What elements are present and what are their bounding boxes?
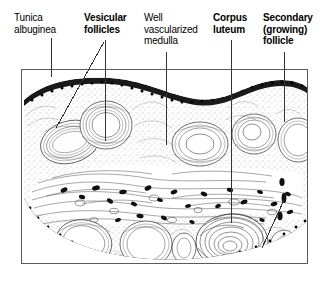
vesicular-follicle-lower-centre [120,221,172,264]
label-tunica-albuginea: Tunica albuginea [14,12,80,35]
vesicular-follicle-upper-centre [80,101,132,149]
label-well-vascularized-medulla: Well vascularized medulla [144,12,212,47]
tissue-body [22,70,308,264]
ovary-micrograph [22,70,308,264]
small-follicle [172,233,196,263]
vesicular-follicle-centre-right [172,122,228,166]
secondary-growing-follicle [232,114,276,154]
label-vesicular-follicles: Vesicular follicles [84,12,144,35]
label-secondary-growing-follicle: Secondary (growing) follicle [263,12,324,47]
label-corpus-luteum: Corpus luteum [213,12,263,35]
micrograph-frame [21,69,308,264]
ovary-histology-figure: Tunica albuginea Vesicular follicles Wel… [0,0,324,284]
